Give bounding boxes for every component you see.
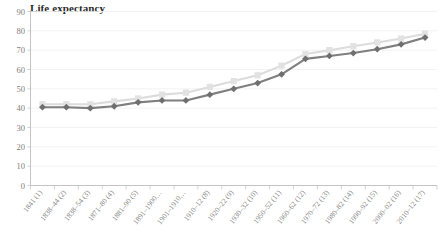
data-point-marker <box>183 90 189 96</box>
data-point-marker <box>231 78 237 84</box>
life-expectancy-chart: Life expectancy 0102030405060708090 1841… <box>0 0 443 249</box>
data-point-marker <box>278 63 284 69</box>
y-tick-label: 10 <box>17 161 26 171</box>
data-point-marker <box>350 50 357 57</box>
y-tick-label: 40 <box>17 103 26 113</box>
data-point-marker <box>326 47 332 53</box>
data-point-marker <box>326 53 333 60</box>
data-point-marker <box>254 80 261 87</box>
data-point-marker <box>159 97 166 104</box>
x-tick-label: 1841 (1) <box>21 188 44 214</box>
data-point-marker <box>255 72 261 78</box>
data-point-marker <box>183 97 190 104</box>
x-axis-labels: 1841 (1)1838–44 (2)1838–54 (3)1871–80 (4… <box>21 188 427 226</box>
data-series <box>39 31 428 112</box>
y-tick-label: 50 <box>17 84 26 94</box>
chart-plot-area: 0102030405060708090 1841 (1)1838–44 (2)1… <box>0 0 443 249</box>
data-point-marker <box>159 92 165 98</box>
data-point-marker <box>206 91 213 98</box>
series-line-upper-series <box>42 34 425 105</box>
y-tick-label: 80 <box>17 26 26 36</box>
data-point-marker <box>398 41 405 48</box>
y-tick-label: 60 <box>17 65 26 75</box>
series-line-lower-series <box>42 38 425 109</box>
y-tick-label: 90 <box>17 7 26 17</box>
data-point-marker <box>374 39 380 45</box>
axes <box>31 11 438 186</box>
x-axis-ticks <box>31 186 438 190</box>
y-tick-label: 20 <box>17 142 26 152</box>
y-tick-label: 30 <box>17 123 26 133</box>
data-point-marker <box>207 84 213 90</box>
y-tick-label: 0 <box>21 181 25 191</box>
data-point-marker <box>398 35 404 41</box>
data-point-marker <box>350 43 356 49</box>
y-axis-ticks: 0102030405060708090 <box>17 7 31 191</box>
data-point-marker <box>374 46 381 53</box>
data-point-marker <box>230 85 237 92</box>
y-tick-label: 70 <box>17 45 26 55</box>
